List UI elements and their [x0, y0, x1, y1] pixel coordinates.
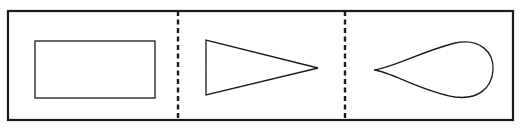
diagram-background: [0, 0, 520, 131]
shapes-diagram: [0, 0, 520, 131]
